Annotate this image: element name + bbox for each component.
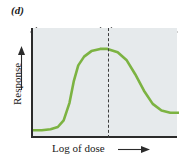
response-curve	[33, 28, 179, 138]
dose-response-figure: (d) Response Binding to high affinity re…	[0, 0, 184, 163]
x-axis-label: Log of dose	[52, 142, 105, 154]
y-axis-label: Response	[11, 44, 23, 124]
panel-label: (d)	[11, 5, 24, 16]
x-axis-arrow-icon	[118, 145, 150, 154]
region-divider-line	[108, 28, 109, 138]
plot-area	[31, 28, 177, 138]
